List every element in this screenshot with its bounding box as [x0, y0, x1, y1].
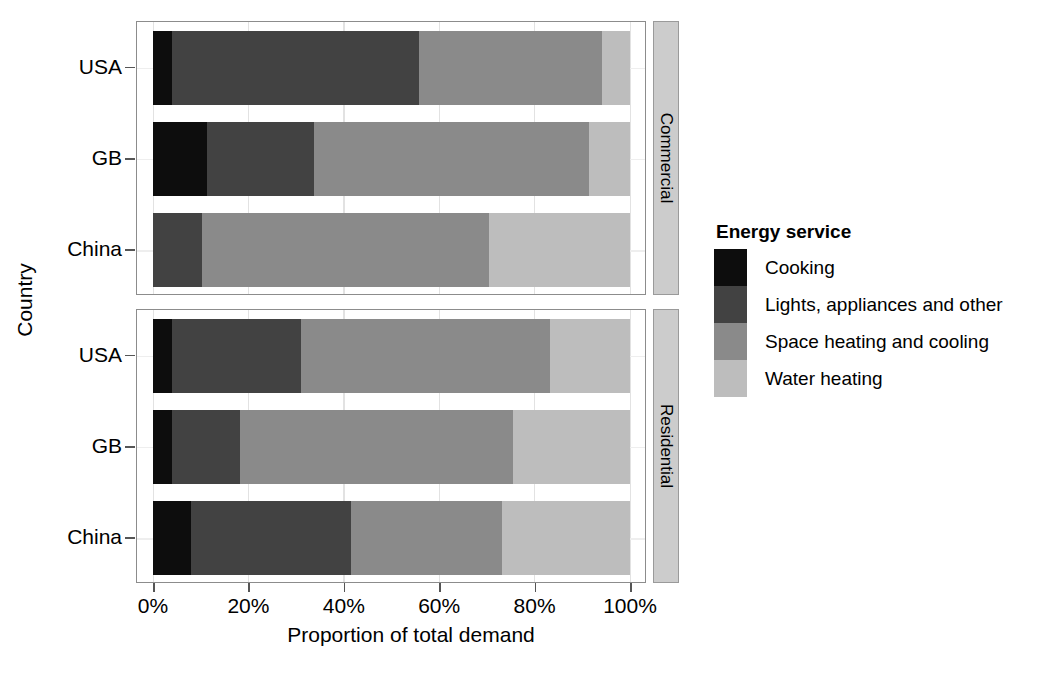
legend-swatch-2 — [714, 323, 747, 360]
x-tick-mark — [344, 583, 346, 592]
facet-strip-commercial: Commercial — [653, 21, 679, 295]
y-tick-label: China — [12, 237, 122, 261]
y-tick-mark — [125, 67, 135, 69]
bar-segment-2 — [202, 213, 490, 287]
legend-swatch-3 — [714, 360, 747, 397]
x-tick-label: 80% — [495, 594, 575, 618]
y-axis-title: Country — [8, 0, 42, 600]
y-tick-mark — [125, 537, 135, 539]
bar-segment-1 — [172, 319, 302, 393]
bar-segment-1 — [172, 410, 241, 484]
x-tick-mark — [535, 583, 537, 592]
legend-label: Space heating and cooling — [765, 331, 989, 353]
legend-items: CookingLights, appliances and otherSpace… — [714, 249, 1034, 397]
bar-segment-3 — [489, 213, 629, 287]
legend-label: Water heating — [765, 368, 883, 390]
legend-item: Space heating and cooling — [714, 323, 1034, 360]
bar-gb-residential — [153, 410, 630, 484]
bar-segment-3 — [589, 122, 630, 196]
legend: Energy service CookingLights, appliances… — [714, 221, 1034, 397]
bar-usa-residential — [153, 319, 630, 393]
bar-china-commercial — [153, 213, 630, 287]
bar-segment-3 — [502, 501, 630, 575]
bar-segment-0 — [153, 319, 172, 393]
x-tick-mark — [248, 583, 250, 592]
y-tick-label: China — [12, 525, 122, 549]
grid-line-vertical — [630, 310, 631, 582]
bar-segment-3 — [513, 410, 630, 484]
legend-swatch-1 — [714, 286, 747, 323]
x-tick-mark — [153, 583, 155, 592]
x-tick-mark — [439, 583, 441, 592]
x-tick-label: 40% — [304, 594, 384, 618]
panel-residential — [136, 309, 646, 583]
bar-segment-3 — [550, 319, 629, 393]
bar-segment-2 — [419, 31, 602, 105]
legend-item: Cooking — [714, 249, 1034, 286]
x-tick-label: 0% — [113, 594, 193, 618]
x-tick-mark — [630, 583, 632, 592]
bar-segment-2 — [351, 501, 502, 575]
bar-segment-2 — [301, 319, 550, 393]
facet-strip-residential: Residential — [653, 309, 679, 583]
legend-item: Water heating — [714, 360, 1034, 397]
y-tick-mark — [125, 355, 135, 357]
y-tick-mark — [125, 158, 135, 160]
x-tick-label: 60% — [399, 594, 479, 618]
bar-segment-1 — [153, 213, 202, 287]
plot-area-residential — [137, 310, 645, 582]
bar-segment-2 — [314, 122, 589, 196]
legend-item: Lights, appliances and other — [714, 286, 1034, 323]
legend-title: Energy service — [716, 221, 1034, 243]
bar-segment-0 — [153, 122, 208, 196]
y-tick-mark — [125, 249, 135, 251]
plot-area-commercial — [137, 22, 645, 294]
y-tick-mark — [125, 446, 135, 448]
bar-segment-1 — [207, 122, 313, 196]
legend-swatch-0 — [714, 249, 747, 286]
y-tick-label: USA — [12, 55, 122, 79]
y-tick-label: GB — [12, 146, 122, 170]
bar-segment-1 — [191, 501, 351, 575]
bar-segment-0 — [153, 410, 172, 484]
grid-line-vertical — [630, 22, 631, 294]
bar-china-residential — [153, 501, 630, 575]
x-axis-title: Proportion of total demand — [136, 623, 686, 647]
bar-usa-commercial — [153, 31, 630, 105]
legend-label: Lights, appliances and other — [765, 294, 1003, 316]
bar-segment-1 — [172, 31, 419, 105]
x-tick-label: 100% — [590, 594, 670, 618]
panel-commercial — [136, 21, 646, 295]
bar-segment-0 — [153, 31, 172, 105]
bar-segment-2 — [240, 410, 512, 484]
bar-segment-0 — [153, 501, 191, 575]
chart-root: Country Commercial Residential Proportio… — [0, 0, 1047, 675]
x-tick-label: 20% — [208, 594, 288, 618]
y-tick-label: USA — [12, 343, 122, 367]
legend-label: Cooking — [765, 257, 835, 279]
bar-segment-3 — [602, 31, 630, 105]
bar-gb-commercial — [153, 122, 630, 196]
y-tick-label: GB — [12, 434, 122, 458]
